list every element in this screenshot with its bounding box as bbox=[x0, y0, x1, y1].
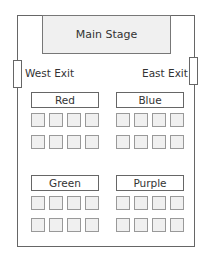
seat-blue-r2-s2[interactable] bbox=[134, 135, 148, 149]
seat-green-r1-s4[interactable] bbox=[85, 196, 99, 210]
seat-purple-r2-s1[interactable] bbox=[116, 218, 130, 232]
seat-green-r1-s3[interactable] bbox=[67, 196, 81, 210]
section-name: Blue bbox=[138, 94, 161, 106]
seat-blue-r2-s3[interactable] bbox=[152, 135, 166, 149]
west-exit-label: West Exit bbox=[25, 67, 74, 79]
seat-green-r1-s1[interactable] bbox=[31, 196, 45, 210]
main-stage: Main Stage bbox=[42, 15, 171, 54]
seat-purple-r1-s1[interactable] bbox=[116, 196, 130, 210]
east-exit-door bbox=[189, 57, 198, 85]
section-label-green: Green bbox=[31, 175, 99, 191]
seat-blue-r1-s2[interactable] bbox=[134, 113, 148, 127]
seat-blue-r2-s1[interactable] bbox=[116, 135, 130, 149]
section-label-blue: Blue bbox=[116, 92, 184, 108]
seat-green-r2-s1[interactable] bbox=[31, 218, 45, 232]
section-name: Green bbox=[49, 177, 81, 189]
seat-green-r2-s4[interactable] bbox=[85, 218, 99, 232]
seat-red-r1-s4[interactable] bbox=[85, 113, 99, 127]
seat-green-r1-s2[interactable] bbox=[49, 196, 63, 210]
seat-purple-r2-s3[interactable] bbox=[152, 218, 166, 232]
seat-green-r2-s2[interactable] bbox=[49, 218, 63, 232]
seat-blue-r1-s1[interactable] bbox=[116, 113, 130, 127]
seat-purple-r1-s4[interactable] bbox=[170, 196, 184, 210]
seat-red-r1-s1[interactable] bbox=[31, 113, 45, 127]
seat-red-r1-s2[interactable] bbox=[49, 113, 63, 127]
seat-red-r2-s2[interactable] bbox=[49, 135, 63, 149]
main-stage-label: Main Stage bbox=[76, 28, 138, 41]
section-name: Purple bbox=[133, 177, 166, 189]
seat-blue-r1-s3[interactable] bbox=[152, 113, 166, 127]
seat-purple-r1-s3[interactable] bbox=[152, 196, 166, 210]
seat-purple-r1-s2[interactable] bbox=[134, 196, 148, 210]
section-label-red: Red bbox=[31, 92, 99, 108]
east-exit-label: East Exit bbox=[142, 67, 188, 79]
section-label-purple: Purple bbox=[116, 175, 184, 191]
seat-purple-r2-s2[interactable] bbox=[134, 218, 148, 232]
west-exit-door bbox=[13, 60, 22, 88]
seat-purple-r2-s4[interactable] bbox=[170, 218, 184, 232]
section-name: Red bbox=[55, 94, 75, 106]
seat-red-r2-s3[interactable] bbox=[67, 135, 81, 149]
seat-red-r2-s4[interactable] bbox=[85, 135, 99, 149]
seat-red-r2-s1[interactable] bbox=[31, 135, 45, 149]
seat-blue-r1-s4[interactable] bbox=[170, 113, 184, 127]
seat-blue-r2-s4[interactable] bbox=[170, 135, 184, 149]
seat-red-r1-s3[interactable] bbox=[67, 113, 81, 127]
seat-green-r2-s3[interactable] bbox=[67, 218, 81, 232]
